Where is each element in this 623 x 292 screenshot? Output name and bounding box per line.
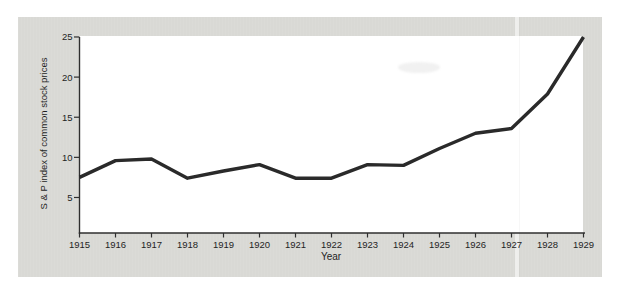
- x-tick-label: 1917: [137, 239, 167, 250]
- y-tick-label: 10: [43, 152, 73, 163]
- x-tick-label: 1921: [281, 239, 311, 250]
- y-tick-label: 20: [43, 72, 73, 83]
- x-axis-title: Year: [181, 251, 481, 262]
- y-tick-label: 25: [43, 31, 73, 42]
- y-tick-label: 5: [43, 192, 73, 203]
- x-tick-label: 1915: [65, 239, 95, 250]
- y-axis-title: S & P index of common stock prices: [38, 34, 49, 234]
- y-tick-label: 15: [43, 112, 73, 123]
- x-tick-label: 1916: [101, 239, 131, 250]
- data-line: [80, 37, 584, 178]
- x-tick-label: 1920: [245, 239, 275, 250]
- x-tick-label: 1922: [317, 239, 347, 250]
- x-tick-label: 1927: [497, 239, 527, 250]
- x-tick-label: 1926: [461, 239, 491, 250]
- x-tick-label: 1924: [389, 239, 419, 250]
- x-tick-label: 1923: [353, 239, 383, 250]
- scanned-chart-page: S & P index of common stock prices Year …: [0, 0, 623, 292]
- x-tick-label: 1919: [209, 239, 239, 250]
- x-tick-label: 1928: [533, 239, 563, 250]
- x-tick-label: 1918: [173, 239, 203, 250]
- x-tick-label: 1929: [569, 239, 599, 250]
- x-tick-label: 1925: [425, 239, 455, 250]
